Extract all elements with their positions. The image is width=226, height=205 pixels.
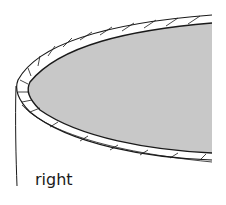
- leader-line: [16, 86, 17, 186]
- inner-fill-region: [28, 23, 212, 153]
- diagram-label: right: [35, 170, 73, 189]
- nose-cross-section-diagram: [0, 0, 226, 205]
